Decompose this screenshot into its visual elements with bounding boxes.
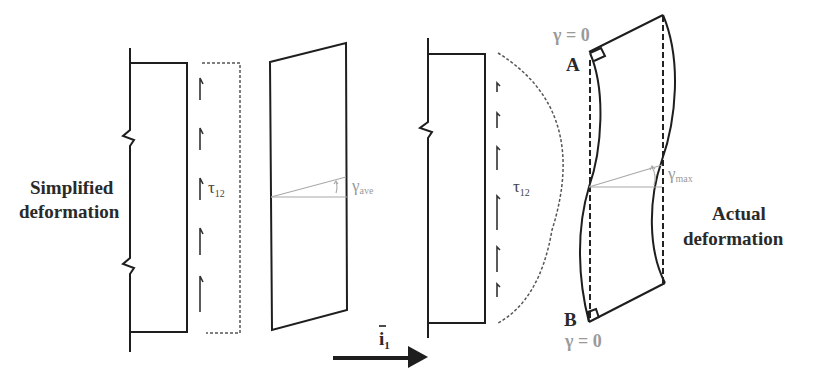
point-b-label: B — [564, 309, 577, 330]
support-line-left — [123, 48, 134, 352]
actual-plate — [420, 38, 485, 338]
tau12-label-left: τ12 — [208, 178, 225, 199]
actual-label-line2: deformation — [683, 228, 784, 249]
simplified-plate — [123, 48, 187, 352]
support-line-middle — [420, 38, 432, 338]
gamma-ave-label: γave — [351, 176, 374, 196]
i1-direction-arrow — [333, 346, 428, 368]
actual-deformed-shape — [580, 15, 675, 322]
simplified-label-line2: deformation — [19, 201, 120, 222]
shear-deformation-diagram: τ12 Simplified deformation γave τ12 i1 — [0, 0, 824, 392]
plate-rect-middle — [428, 54, 485, 323]
i1-label: i1 — [379, 328, 390, 351]
point-a-label: A — [566, 54, 580, 75]
gamma-zero-bottom-label: γ = 0 — [564, 331, 602, 351]
plate-rect-left — [130, 63, 187, 332]
uniform-shear-arrows — [200, 78, 203, 312]
gamma-max-label: γmax — [667, 164, 693, 184]
simplified-label-line1: Simplified — [30, 177, 114, 198]
actual-label-line1: Actual — [712, 203, 766, 224]
parabolic-shear-arrows — [497, 83, 500, 297]
gamma-zero-top-label: γ = 0 — [552, 25, 590, 45]
parabolic-stress-distribution — [498, 53, 563, 323]
gamma-ave-indicator — [271, 177, 347, 197]
tau12-label-right: τ12 — [513, 177, 530, 198]
gamma-max-indicator — [589, 165, 662, 187]
